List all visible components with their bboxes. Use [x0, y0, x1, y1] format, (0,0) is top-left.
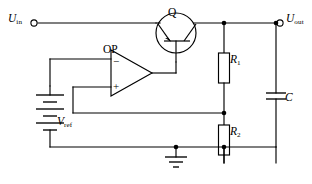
circuit-schematic: [0, 0, 312, 184]
resistor-r2-label: R2: [230, 126, 241, 138]
resistor-r1: [219, 23, 230, 113]
schematic-canvas: Uin Uout Q OP R1 R2 C Vref − +: [0, 0, 312, 184]
opamp-symbol: OP: [103, 43, 118, 55]
resistor-r2-symbol: R: [230, 125, 237, 137]
resistor-r1-symbol: R: [230, 53, 237, 65]
resistor-r1-label: R1: [230, 54, 241, 66]
resistor-r2-subscript: 2: [237, 131, 241, 139]
ground-rail-wire: [50, 147, 276, 163]
output-rail-junction: [222, 21, 227, 26]
ground-rail-junction: [222, 145, 227, 150]
transistor-q: [156, 13, 196, 62]
reference-voltage-label: Vref: [57, 116, 72, 128]
ground-symbol-icon: [165, 145, 187, 167]
opamp-noninverting-sign: +: [113, 81, 119, 92]
input-voltage-subscript: in: [16, 18, 22, 26]
transistor-label: Q: [168, 7, 176, 19]
capacitor-top-junction: [274, 21, 279, 26]
divider-tap-junction: [222, 111, 227, 116]
input-terminal-node: [31, 20, 37, 26]
resistor-r1-subscript: 1: [237, 59, 241, 67]
opamp-label: OP: [103, 44, 118, 56]
inverting-input-wire: [50, 59, 111, 86]
opamp-output-wire: [152, 62, 176, 73]
input-voltage-label: Uin: [8, 13, 22, 25]
capacitor-c: [266, 23, 286, 163]
capacitor-symbol: C: [285, 91, 293, 103]
reference-voltage-symbol: V: [57, 115, 64, 127]
output-voltage-subscript: out: [294, 18, 303, 26]
opamp-inverting-sign: −: [113, 56, 119, 67]
reference-voltage-subscript: ref: [64, 121, 72, 129]
noninverting-input-wire: [73, 87, 224, 113]
transistor-symbol: Q: [168, 6, 176, 18]
output-voltage-label: Uout: [286, 13, 304, 25]
capacitor-label: C: [285, 92, 293, 104]
